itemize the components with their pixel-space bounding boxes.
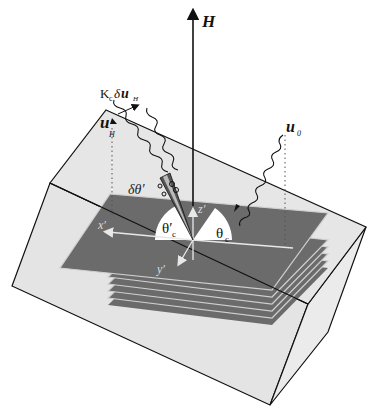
label-h: H xyxy=(201,12,216,31)
label-z-axis: z′ xyxy=(197,202,206,216)
svg-text:c: c xyxy=(109,94,113,103)
diagram-canvas: H K c δ u H u H u 0 δθ′ θ′ c θ c x′ y′ z… xyxy=(0,0,377,413)
svg-text:θ: θ xyxy=(216,225,223,241)
label-delta-theta: δθ′ xyxy=(128,182,145,197)
svg-text:δ: δ xyxy=(114,86,121,101)
svg-text:u: u xyxy=(286,118,295,135)
label-y-axis: y′ xyxy=(156,262,165,276)
svg-text:c: c xyxy=(225,234,229,244)
svg-text:H: H xyxy=(132,95,139,103)
svg-text:0: 0 xyxy=(297,129,301,138)
svg-text:θ′: θ′ xyxy=(162,220,172,236)
label-x-axis: x′ xyxy=(97,218,106,232)
svg-text:u: u xyxy=(121,86,129,101)
label-u0: u 0 xyxy=(286,118,301,138)
svg-text:c: c xyxy=(172,229,176,239)
correction-vector xyxy=(118,106,136,114)
label-k-delta-uh: K c δ u H xyxy=(100,86,139,103)
